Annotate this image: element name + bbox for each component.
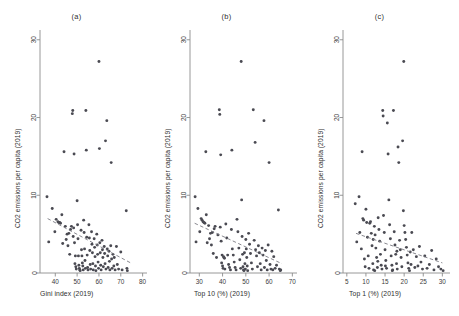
svg-text:20: 20 <box>181 114 188 122</box>
svg-text:80: 80 <box>139 278 147 285</box>
svg-text:0: 0 <box>334 271 341 275</box>
svg-text:10: 10 <box>181 191 188 199</box>
svg-text:30: 30 <box>196 278 204 285</box>
panel-a: (a) CO2 emissions per capita (2019) Gini… <box>0 0 153 316</box>
panel-b: (b) CO2 emissions per capita (2019) Top … <box>150 0 303 316</box>
svg-text:20: 20 <box>334 114 341 122</box>
svg-text:40: 40 <box>52 278 60 285</box>
svg-text:20: 20 <box>31 114 38 122</box>
svg-text:30: 30 <box>31 36 38 44</box>
svg-text:10: 10 <box>334 191 341 199</box>
svg-text:10: 10 <box>31 191 38 199</box>
svg-text:50: 50 <box>74 278 82 285</box>
svg-text:20: 20 <box>401 278 409 285</box>
svg-text:30: 30 <box>334 36 341 44</box>
svg-text:15: 15 <box>381 278 389 285</box>
figure-container: (a) CO2 emissions per capita (2019) Gini… <box>0 0 459 316</box>
svg-text:30: 30 <box>181 36 188 44</box>
svg-text:60: 60 <box>266 278 274 285</box>
svg-text:70: 70 <box>117 278 125 285</box>
svg-text:70: 70 <box>289 278 297 285</box>
panel-a-plot: 01020304050607080 <box>0 0 153 316</box>
panel-b-plot: 01020303040506070 <box>150 0 303 316</box>
svg-text:10: 10 <box>362 278 370 285</box>
svg-text:0: 0 <box>181 271 188 275</box>
panel-c-plot: 010203051015202530 <box>303 0 456 316</box>
panel-c: (c) CO2 emissions per capita (2019) Top … <box>303 0 456 316</box>
svg-text:50: 50 <box>242 278 250 285</box>
svg-text:40: 40 <box>219 278 227 285</box>
svg-text:30: 30 <box>439 278 447 285</box>
svg-text:5: 5 <box>345 278 349 285</box>
svg-text:25: 25 <box>420 278 428 285</box>
svg-text:60: 60 <box>95 278 103 285</box>
svg-text:0: 0 <box>31 271 38 275</box>
